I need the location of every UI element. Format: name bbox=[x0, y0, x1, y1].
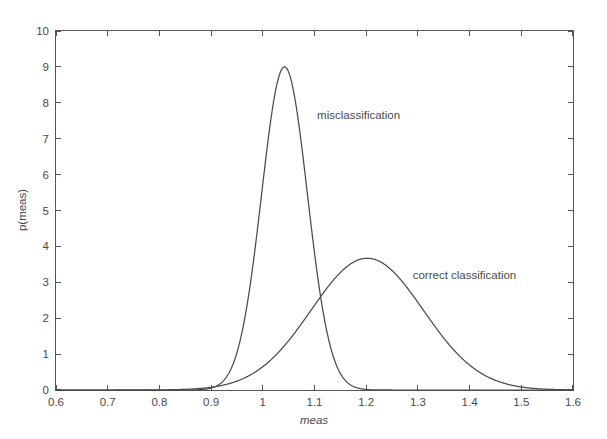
x-tick-label: 1.4 bbox=[462, 396, 479, 408]
y-axis-label: p(meas) bbox=[16, 189, 28, 231]
x-tick-label: 1.5 bbox=[513, 396, 529, 408]
x-tick-label: 0.6 bbox=[48, 396, 64, 408]
x-tick-label: 1 bbox=[260, 396, 266, 408]
y-tick-label: 7 bbox=[43, 133, 49, 145]
curve-annotation: misclassification bbox=[317, 109, 400, 121]
y-tick-label: 1 bbox=[43, 348, 49, 360]
x-tick-label: 1.1 bbox=[307, 396, 323, 408]
y-tick-label: 0 bbox=[43, 384, 49, 396]
y-tick-label: 10 bbox=[36, 25, 49, 37]
y-tick-label: 6 bbox=[43, 169, 49, 181]
x-tick-label: 1.2 bbox=[358, 396, 374, 408]
y-tick-label: 8 bbox=[43, 97, 49, 109]
x-tick-label: 0.8 bbox=[151, 396, 167, 408]
y-tick-label: 3 bbox=[43, 276, 49, 288]
x-tick-label: 1.3 bbox=[410, 396, 426, 408]
x-tick-label: 1.6 bbox=[565, 396, 581, 408]
chart-background bbox=[0, 0, 607, 439]
x-tick-label: 0.7 bbox=[100, 396, 116, 408]
probability-density-chart: 0.60.70.80.911.11.21.31.41.51.6 01234567… bbox=[0, 0, 607, 439]
curve-annotation: correct classification bbox=[413, 269, 517, 281]
x-axis-label: meas bbox=[300, 414, 328, 426]
y-tick-label: 4 bbox=[43, 240, 50, 252]
y-tick-label: 5 bbox=[43, 205, 49, 217]
x-tick-label: 0.9 bbox=[203, 396, 219, 408]
y-tick-label: 2 bbox=[43, 312, 49, 324]
y-tick-label: 9 bbox=[43, 61, 49, 73]
